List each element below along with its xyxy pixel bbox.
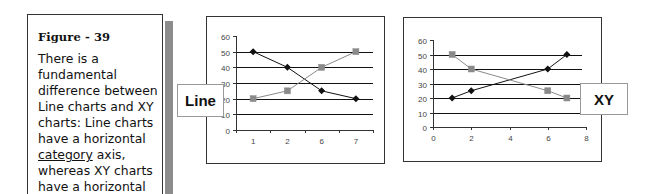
x-tick-label: 0 bbox=[431, 134, 436, 143]
y-tick-label: 0 bbox=[226, 127, 231, 136]
x-tick-label: 4 bbox=[508, 134, 513, 143]
data-point-square bbox=[353, 49, 359, 55]
data-point-square bbox=[250, 96, 256, 102]
xy-chart-y-tick-labels: 0102030405060 bbox=[418, 37, 427, 133]
y-tick-label: 0 bbox=[423, 124, 428, 133]
y-tick-label: 10 bbox=[418, 110, 427, 119]
x-tick-label: 7 bbox=[354, 137, 359, 146]
xy-chart-label: XY bbox=[581, 84, 628, 115]
y-tick-label: 20 bbox=[418, 95, 427, 104]
x-tick-label: 8 bbox=[584, 134, 589, 143]
xy-label-text: XY bbox=[594, 91, 614, 108]
x-tick-label: 2 bbox=[285, 137, 290, 146]
data-point-square bbox=[545, 88, 551, 94]
y-tick-label: 50 bbox=[418, 52, 427, 61]
line-label-text: Line bbox=[185, 92, 216, 109]
y-tick-label: 40 bbox=[221, 64, 230, 73]
xy-chart: 0102030405060 02468 bbox=[404, 18, 602, 162]
y-tick-label: 60 bbox=[221, 33, 230, 42]
y-tick-label: 30 bbox=[418, 81, 427, 90]
x-tick-label: 1 bbox=[251, 137, 256, 146]
data-point-square bbox=[468, 66, 474, 72]
data-point-square bbox=[449, 52, 455, 58]
y-tick-label: 60 bbox=[418, 37, 427, 46]
x-tick-label: 6 bbox=[319, 137, 324, 146]
data-point-square bbox=[319, 64, 325, 70]
line-chart-label: Line bbox=[178, 85, 224, 117]
data-point-square bbox=[564, 95, 570, 101]
x-tick-label: 6 bbox=[546, 134, 551, 143]
data-point-square bbox=[284, 88, 290, 94]
x-tick-label: 2 bbox=[469, 134, 474, 143]
y-tick-label: 40 bbox=[418, 66, 427, 75]
y-tick-label: 50 bbox=[221, 49, 230, 58]
charts-canvas: 0102030405060 1267 Line 0102030405060 02… bbox=[0, 0, 656, 194]
line-chart: 0102030405060 1267 bbox=[207, 17, 385, 164]
